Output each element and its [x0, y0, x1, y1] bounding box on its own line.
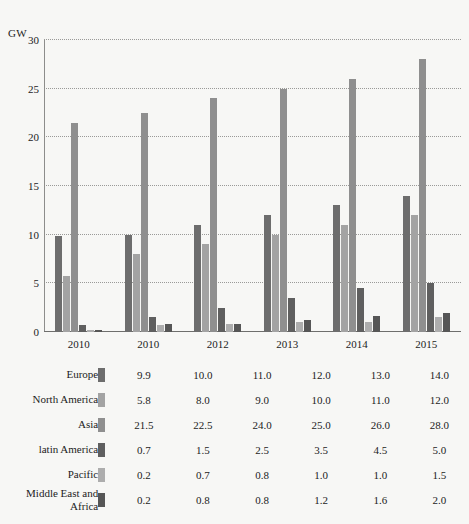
table-row: Middle East and Africa0.20.80.81.21.62.0	[0, 487, 469, 513]
bar-middle-east-and-africa-2012-2	[234, 324, 241, 332]
table-cell-value: 11.0	[232, 362, 291, 387]
table-cell-value: 1.5	[173, 437, 232, 462]
bar-group-4	[331, 40, 383, 332]
bar-asia-2012-2	[210, 98, 217, 332]
bar-north-america-2012-2	[202, 244, 209, 332]
bar-group-1	[122, 40, 174, 332]
bar-pacific-2010-1	[157, 325, 164, 332]
y-tick-label-30: 30	[28, 35, 39, 46]
bar-group-2	[192, 40, 244, 332]
grouped-bar-chart-figure: GW 051015202530 201020102012201320142015…	[0, 0, 469, 524]
bar-middle-east-and-africa-2015-5	[443, 313, 450, 332]
table-cell-value: 5.0	[410, 437, 469, 462]
bar-europe-2010-0	[55, 236, 62, 332]
table-cell-value: 12.0	[410, 387, 469, 412]
legend-swatch-cell	[98, 412, 114, 437]
bar-middle-east-and-africa-2010-0	[95, 330, 102, 332]
table-cell-value: 26.0	[351, 412, 410, 437]
bar-north-america-2010-1	[133, 254, 140, 332]
table-row: Pacific0.20.70.81.01.01.5	[0, 462, 469, 487]
table-cell-value: 11.0	[351, 387, 410, 412]
chart-data-table: Europe9.910.011.012.013.014.0North Ameri…	[0, 362, 469, 513]
table-cell-value: 21.5	[114, 412, 173, 437]
series-name-label: latin America	[0, 437, 98, 462]
color-swatch-icon	[98, 393, 105, 407]
bar-pacific-2013-3	[296, 322, 303, 332]
y-tick-label-15: 15	[28, 181, 39, 192]
color-swatch-icon	[98, 368, 105, 382]
table-cell-value: 0.2	[114, 462, 173, 487]
table-cell-value: 0.8	[232, 462, 291, 487]
color-swatch-icon	[98, 493, 105, 507]
bar-latin-america-2013-3	[288, 298, 295, 332]
y-axis-unit-label: GW	[8, 27, 27, 39]
y-tick-label-5: 5	[34, 278, 40, 289]
bar-asia-2013-3	[280, 89, 287, 332]
table-cell-value: 4.5	[351, 437, 410, 462]
legend-swatch-cell	[98, 462, 114, 487]
bar-pacific-2012-2	[226, 324, 233, 332]
bars-layer	[44, 40, 461, 332]
bar-europe-2015-5	[403, 196, 410, 332]
table-cell-value: 0.8	[232, 487, 291, 513]
table-cell-value: 0.7	[114, 437, 173, 462]
table-cell-value: 1.0	[351, 462, 410, 487]
bar-pacific-2010-0	[87, 330, 94, 332]
table-cell-value: 2.5	[232, 437, 291, 462]
series-name-label: Europe	[0, 362, 98, 387]
x-tick-label-2: 2012	[207, 339, 229, 350]
legend-swatch-cell	[98, 362, 114, 387]
x-tick-label-4: 2014	[346, 339, 368, 350]
bar-middle-east-and-africa-2014-4	[373, 316, 380, 332]
bar-north-america-2015-5	[411, 215, 418, 332]
table-cell-value: 9.9	[114, 362, 173, 387]
table-cell-value: 25.0	[292, 412, 351, 437]
table-cell-value: 8.0	[173, 387, 232, 412]
bar-north-america-2010-0	[63, 276, 70, 332]
bar-north-america-2014-4	[341, 225, 348, 332]
table-cell-value: 28.0	[410, 412, 469, 437]
table-cell-value: 0.7	[173, 462, 232, 487]
bar-asia-2014-4	[349, 79, 356, 332]
bar-pacific-2014-4	[365, 322, 372, 332]
series-name-label: North America	[0, 387, 98, 412]
bar-europe-2010-1	[125, 235, 132, 332]
legend-swatch-cell	[98, 437, 114, 462]
bar-pacific-2015-5	[435, 317, 442, 332]
legend-swatch-cell	[98, 387, 114, 412]
table-cell-value: 24.0	[232, 412, 291, 437]
y-tick-label-0: 0	[34, 327, 40, 338]
x-tick-label-0: 2010	[68, 339, 90, 350]
table-cell-value: 0.8	[173, 487, 232, 513]
bar-latin-america-2010-1	[149, 317, 156, 332]
table-cell-value: 1.6	[351, 487, 410, 513]
table-row: North America5.88.09.010.011.012.0	[0, 387, 469, 412]
table-cell-value: 5.8	[114, 387, 173, 412]
y-tick-label-25: 25	[28, 83, 39, 94]
bar-latin-america-2012-2	[218, 308, 225, 332]
bar-latin-america-2014-4	[357, 288, 364, 332]
bar-latin-america-2015-5	[427, 283, 434, 332]
table-cell-value: 14.0	[410, 362, 469, 387]
bar-latin-america-2010-0	[79, 325, 86, 332]
series-name-label: Pacific	[0, 462, 98, 487]
table-cell-value: 22.5	[173, 412, 232, 437]
table-cell-value: 9.0	[232, 387, 291, 412]
bar-europe-2012-2	[194, 225, 201, 332]
plot-inner-area: 051015202530 201020102012201320142015	[44, 40, 461, 332]
chart-data-table-body: Europe9.910.011.012.013.014.0North Ameri…	[0, 362, 469, 513]
table-cell-value: 1.5	[410, 462, 469, 487]
bar-group-3	[261, 40, 313, 332]
color-swatch-icon	[98, 443, 105, 457]
table-cell-value: 3.5	[292, 437, 351, 462]
table-cell-value: 1.0	[292, 462, 351, 487]
bar-north-america-2013-3	[272, 235, 279, 332]
table-row: Europe9.910.011.012.013.014.0	[0, 362, 469, 387]
table-cell-value: 10.0	[292, 387, 351, 412]
chart-plot-region: GW 051015202530 201020102012201320142015	[0, 0, 469, 356]
bar-middle-east-and-africa-2013-3	[304, 320, 311, 332]
bar-europe-2014-4	[333, 205, 340, 332]
table-row: latin America0.71.52.53.54.55.0	[0, 437, 469, 462]
bar-asia-2015-5	[419, 59, 426, 332]
bar-group-0	[53, 40, 105, 332]
